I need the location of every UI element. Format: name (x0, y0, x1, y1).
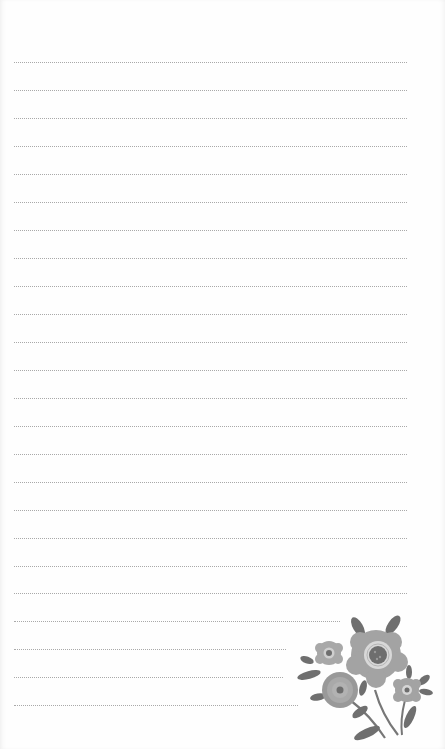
ruled-line (14, 705, 298, 706)
ruled-line (14, 230, 407, 231)
ruled-line (14, 593, 407, 594)
ruled-line (14, 538, 407, 539)
ruled-line (14, 370, 407, 371)
ruled-line (14, 677, 283, 678)
ruled-line (14, 426, 407, 427)
ruled-line (14, 482, 407, 483)
ruled-line (14, 398, 407, 399)
ruled-line (14, 510, 407, 511)
title-area[interactable] (14, 10, 407, 40)
ruled-line (14, 649, 286, 650)
ruled-line (14, 90, 407, 91)
notepaper (0, 0, 445, 749)
ruled-line (14, 258, 407, 259)
ruled-line (14, 566, 407, 567)
floral-decoration-icon (290, 612, 445, 749)
ruled-line (14, 146, 407, 147)
ruled-line (14, 454, 407, 455)
ruled-line (14, 202, 407, 203)
ruled-line (14, 118, 407, 119)
ruled-line (14, 62, 407, 63)
ruled-line (14, 342, 407, 343)
ruled-line (14, 314, 407, 315)
ruled-line (14, 286, 407, 287)
ruled-line (14, 174, 407, 175)
